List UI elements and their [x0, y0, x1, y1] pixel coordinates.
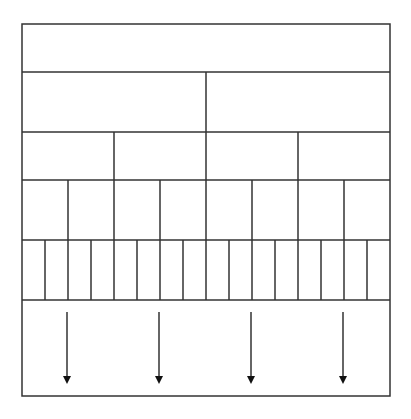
arrow-down-icon — [63, 312, 71, 384]
arrow-down-icon — [155, 312, 163, 384]
subdivision-diagram — [0, 0, 411, 419]
arrows-layer — [63, 312, 347, 384]
arrow-down-icon — [339, 312, 347, 384]
row-quarters — [22, 132, 390, 180]
row-sixteenths — [22, 240, 390, 300]
row-halves — [22, 72, 390, 132]
rows-layer — [22, 72, 390, 300]
arrow-down-icon — [247, 312, 255, 384]
row-eighths — [22, 180, 390, 240]
